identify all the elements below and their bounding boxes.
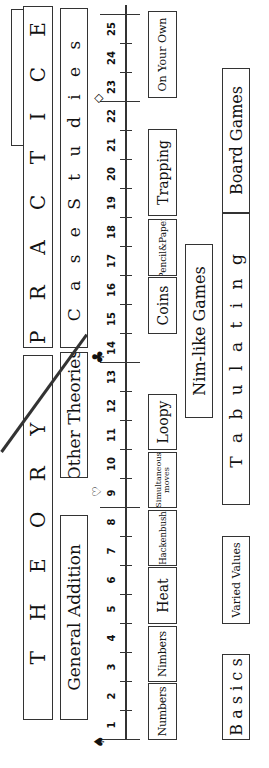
tick-label: 21 [106, 137, 117, 153]
tick-20 [120, 159, 132, 160]
chapter-loopy-label: Loopy [155, 400, 171, 443]
thread-varied-values: Varied Values [222, 536, 250, 624]
case-studies-label: C a s e S t u d i e s [64, 35, 84, 322]
club-icon: ♣ [92, 350, 106, 364]
practice-header-box: P R A C T I C E [23, 6, 53, 348]
tick-24 [120, 43, 132, 44]
thread-board-games: Board Games [222, 68, 250, 213]
tick-label: 8 [106, 514, 117, 530]
chapter-on-your-own: On Your Own [148, 11, 177, 98]
tick-label: 20 [106, 166, 117, 182]
tick-label: 15 [106, 311, 117, 327]
tick-label: 19 [106, 195, 117, 211]
chapter-trapping-label: Trapping [155, 140, 171, 205]
chapter-trapping: Trapping [148, 129, 177, 216]
tick-18 [120, 217, 132, 218]
chapter-heat: Heat [148, 567, 177, 624]
tick-14 [120, 333, 132, 334]
tick-7 [120, 536, 132, 537]
chapter-on-your-own-label: On Your Own [156, 18, 169, 92]
tick-8 [100, 507, 140, 508]
tick-6 [120, 565, 132, 566]
theory-header-label: T H E O R Y [26, 411, 50, 665]
chapter-dependency-diagram: T H E O R Y P R A C T I C E General Addi… [0, 0, 269, 768]
theory-header: T H E O R Y [23, 355, 53, 720]
tick-15 [120, 304, 132, 305]
thread-basics: B a s i c s [222, 654, 250, 740]
thread-board-games-label: Board Games [227, 86, 246, 195]
spade-icon: ♠ [92, 735, 106, 748]
tick-label: 11 [106, 427, 117, 443]
tick-label: 25 [106, 21, 117, 37]
tick-25 [100, 14, 140, 15]
tick-4 [120, 623, 132, 624]
chapter-axis [125, 5, 127, 740]
tick-11 [120, 420, 132, 421]
tick-label: 17 [106, 253, 117, 269]
practice-header-label: P R A C T I C E [26, 10, 50, 344]
chapter-hackenbush: Hackenbush [148, 510, 177, 566]
chapter-hackenbush-label: Hackenbush [158, 511, 168, 565]
thread-tabulating: T a b u l a t i n g [222, 213, 250, 505]
diamond-icon: ◇ [91, 94, 105, 103]
chapter-coins: Coins [148, 277, 177, 334]
tick-label: 13 [106, 369, 117, 385]
chapter-heat-label: Heat [155, 578, 171, 612]
chapter-simultaneous-moves: Simultaneous moves [148, 452, 177, 508]
tick-5 [120, 594, 132, 595]
tick-17 [120, 246, 132, 247]
tick-label: 24 [106, 50, 117, 66]
tick-22 [100, 101, 140, 102]
tick-3 [120, 652, 132, 653]
tick-label: 2 [106, 688, 117, 704]
thread-varied-values-label: Varied Values [230, 542, 243, 618]
tick-label: 6 [106, 572, 117, 588]
tick-2 [120, 681, 132, 682]
chapter-nimbers-label: Nimbers [156, 631, 169, 677]
general-addition-label: General Addition [64, 544, 84, 691]
tick-label: 3 [106, 659, 117, 675]
tick-label: 18 [106, 224, 117, 240]
chapter-pencil-paper: Pencil&Paper [148, 219, 177, 276]
chapter-simultaneous-moves-label: Simultaneous moves [155, 452, 171, 507]
tick-1 [120, 710, 132, 711]
other-theories: Other Theories [60, 352, 88, 478]
tick-23 [120, 72, 132, 73]
thread-nim-like-games-label: Nim-like Games [190, 266, 209, 395]
tick-label: 4 [106, 630, 117, 646]
chapter-coins-label: Coins [155, 286, 171, 326]
tick-label: 1 [106, 717, 117, 733]
tick-9 [120, 478, 132, 479]
tick-label: 7 [106, 543, 117, 559]
thread-nim-like-games: Nim-like Games [185, 244, 213, 418]
chapter-nimbers: Nimbers [148, 626, 177, 682]
chapter-pencil-paper-label: Pencil&Paper [158, 219, 168, 276]
chapter-loopy: Loopy [148, 394, 177, 450]
tick-10 [120, 449, 132, 450]
thread-tabulating-label: T a b u l a t i n g [226, 250, 246, 468]
chapter-numbers-label: Numbers [156, 687, 169, 737]
tick-label: 12 [106, 398, 117, 414]
chapter-numbers: Numbers [148, 683, 177, 740]
tick-label: 10 [106, 456, 117, 472]
tick-label: 23 [106, 79, 117, 95]
tick-16 [120, 275, 132, 276]
tick-label: 16 [106, 282, 117, 298]
other-theories-label: Other Theories [64, 352, 84, 478]
tick-21 [120, 130, 132, 131]
general-addition-box: General Addition [60, 515, 88, 720]
heart-icon: ♡ [90, 486, 104, 497]
tick-12 [120, 391, 132, 392]
case-studies-box: C a s e S t u d i e s [60, 8, 88, 348]
tick-label: 9 [106, 485, 117, 501]
tick-19 [120, 188, 132, 189]
tick-label: 22 [106, 108, 117, 124]
tick-label: 5 [106, 601, 117, 617]
thread-basics-label: B a s i c s [227, 658, 246, 735]
